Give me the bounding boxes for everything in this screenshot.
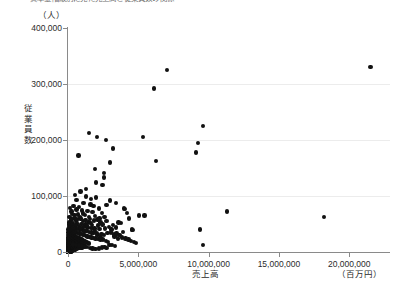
scatter-point — [100, 183, 104, 187]
scatter-point — [92, 218, 96, 222]
scatter-point — [201, 124, 205, 128]
x-tick-mark — [349, 253, 350, 257]
scatter-point — [76, 153, 80, 157]
x-tick-mark — [138, 253, 139, 257]
scatter-point — [201, 243, 205, 247]
scatter-point — [84, 187, 88, 191]
scatter-point — [125, 211, 129, 215]
scatter-point — [130, 228, 134, 232]
scatter-point — [94, 195, 98, 199]
y-tick-mark — [63, 196, 68, 197]
scatter-point — [102, 175, 106, 179]
scatter-point — [91, 204, 95, 208]
y-tick-label: 300,000 — [31, 79, 62, 89]
scatter-chart-figure: 資本金階級別に見た売上高と従業員数の関係 （人） （百万円） 従業員数 売上高 … — [0, 0, 393, 284]
scatter-point — [322, 215, 326, 219]
scatter-point — [78, 189, 82, 193]
scatter-point — [84, 194, 88, 198]
x-tick-label: 0 — [66, 259, 71, 269]
y-tick-label: 400,000 — [31, 23, 62, 33]
scatter-point — [194, 150, 198, 154]
x-tick-label: 10,000,000 — [187, 259, 230, 269]
gridline — [68, 84, 390, 85]
scatter-point — [141, 135, 145, 139]
scatter-point — [114, 201, 118, 205]
scatter-point — [104, 203, 108, 207]
scatter-point — [69, 217, 73, 221]
y-axis-unit-label: （人） — [38, 8, 65, 20]
scatter-point — [142, 213, 146, 217]
scatter-point — [154, 159, 158, 163]
scatter-point — [114, 225, 118, 229]
scatter-point — [198, 227, 202, 231]
x-tick-mark — [68, 253, 69, 257]
scatter-point — [108, 198, 112, 202]
y-tick-mark — [63, 140, 68, 141]
scatter-point — [81, 211, 85, 215]
scatter-point — [81, 201, 85, 205]
scatter-point — [152, 86, 156, 90]
scatter-point — [137, 213, 141, 217]
x-tick-mark — [279, 253, 280, 257]
scatter-point — [97, 216, 101, 220]
scatter-point — [104, 219, 108, 223]
x-axis-line — [67, 252, 390, 253]
scatter-point — [74, 198, 78, 202]
plot-area — [68, 28, 390, 252]
scatter-point — [113, 244, 117, 248]
gridline — [68, 140, 390, 141]
x-tick-label: 20,000,000 — [328, 259, 371, 269]
scatter-point — [100, 222, 104, 226]
x-tick-label: 5,000,000 — [119, 259, 157, 269]
scatter-point — [94, 180, 98, 184]
scatter-point — [134, 241, 138, 245]
scatter-point — [97, 206, 101, 210]
y-tick-mark — [63, 28, 68, 29]
scatter-point — [119, 221, 123, 225]
scatter-point — [71, 242, 75, 246]
x-tick-mark — [209, 253, 210, 257]
y-tick-mark — [63, 84, 68, 85]
scatter-point — [368, 65, 372, 69]
scatter-point — [127, 216, 131, 220]
y-tick-label: 0 — [57, 247, 62, 257]
scatter-point — [87, 131, 91, 135]
scatter-point — [104, 246, 108, 250]
scatter-point — [74, 207, 78, 211]
scatter-point — [165, 68, 169, 72]
scatter-point — [111, 146, 115, 150]
scatter-point — [89, 197, 93, 201]
chart-title: 資本金階級別に見た売上高と従業員数の関係 — [30, 0, 174, 3]
scatter-point — [95, 135, 99, 139]
gridline — [68, 196, 390, 197]
scatter-point — [104, 138, 108, 142]
scatter-point — [225, 209, 229, 213]
scatter-point — [108, 160, 112, 164]
x-tick-label: 15,000,000 — [258, 259, 301, 269]
scatter-point — [196, 141, 200, 145]
scatter-point — [93, 167, 97, 171]
y-tick-label: 100,000 — [31, 191, 62, 201]
y-tick-label: 200,000 — [31, 135, 62, 145]
